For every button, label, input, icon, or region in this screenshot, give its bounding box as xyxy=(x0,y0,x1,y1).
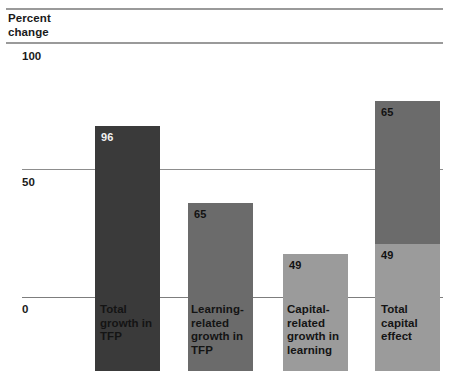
bar-value-label-49: 49 xyxy=(289,259,302,271)
bar-value-label-49-stacked: 49 xyxy=(381,249,394,261)
category-label-capital-related-growth-in-learning: Capital- related growth in learning xyxy=(287,303,377,357)
category-label-total-growth-in-tfp: Total growth in TFP xyxy=(100,303,186,344)
category-label-total-capital-effect: Total capital effect xyxy=(381,303,451,344)
category-label-learning-related-growth-in-tfp: Learning- related growth in TFP xyxy=(191,303,281,357)
bar-value-label-96: 96 xyxy=(101,131,114,143)
bar-value-label-65-stacked: 65 xyxy=(381,106,394,118)
bar-chart: Percentchange 100 50 0 96 65 49 49 xyxy=(0,0,452,371)
bar-segment-total-capital-effect-upper-65[interactable]: 65 xyxy=(375,101,440,244)
bar-value-label-65: 65 xyxy=(194,208,207,220)
